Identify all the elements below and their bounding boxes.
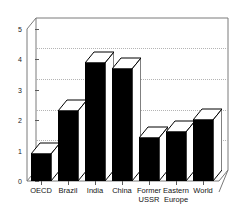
x-tick-mark-world (203, 181, 204, 185)
x-tick-mark-india (95, 181, 96, 185)
x-tick-mark-china (122, 181, 123, 185)
y-tick-label-3: 3 (10, 87, 22, 94)
bar-former-ussr (139, 0, 168, 181)
bar-brazil (58, 0, 87, 181)
bar-eastern-europe (166, 0, 195, 181)
y-tick-label-1: 1 (10, 148, 22, 155)
y-tick-mark-0 (35, 181, 39, 182)
bar-chart: 5 4 3 2 1 0 (0, 0, 245, 205)
bar-india (85, 0, 114, 181)
x-tick-label-world: World (184, 186, 222, 195)
x-tick-mark-brazil (68, 181, 69, 185)
y-axis: 5 4 3 2 1 0 (10, 0, 22, 205)
y-tick-label-2: 2 (10, 117, 22, 124)
x-tick-mark-oecd (41, 181, 42, 185)
y-tick-label-5: 5 (10, 26, 22, 33)
y-tick-label-0: 0 (10, 178, 22, 185)
x-tick-mark-eastern-europe (176, 181, 177, 185)
bar-world (193, 0, 222, 181)
bar-oecd (31, 0, 60, 181)
bar-china (112, 0, 141, 181)
x-tick-mark-former-ussr (149, 181, 150, 185)
y-tick-label-4: 4 (10, 56, 22, 63)
